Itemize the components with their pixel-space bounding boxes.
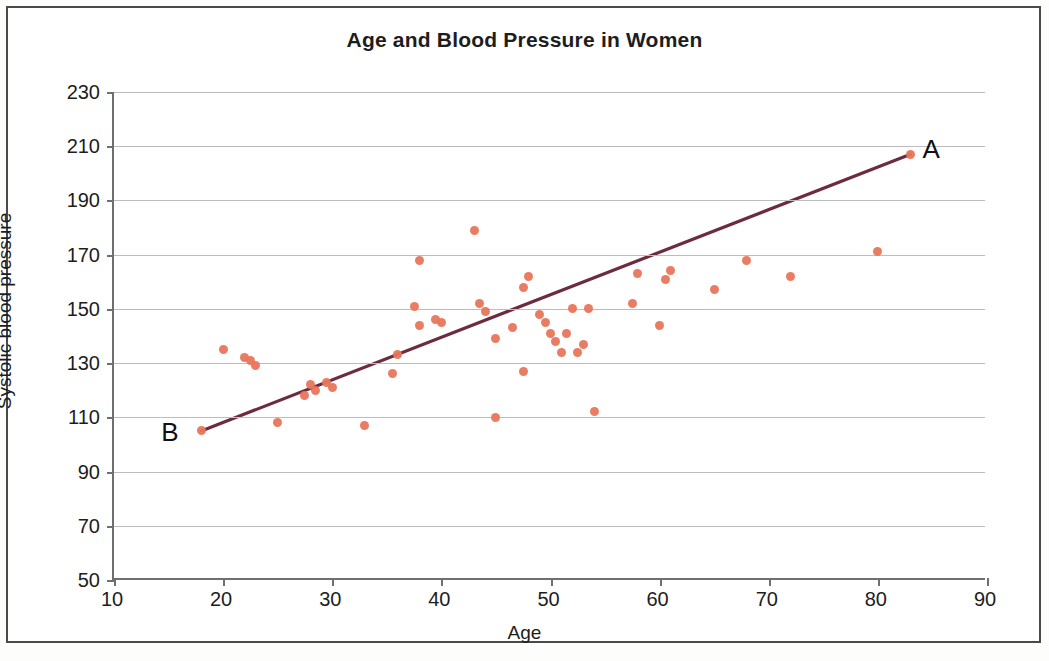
y-gridline — [114, 526, 985, 527]
data-point — [219, 345, 228, 354]
y-tick-mark — [107, 363, 114, 365]
y-tick-label: 210 — [40, 135, 100, 158]
data-point — [906, 150, 915, 159]
x-tick-mark — [441, 578, 443, 586]
data-point — [590, 407, 599, 416]
data-point — [300, 391, 309, 400]
data-point — [197, 426, 206, 435]
y-axis-title: Systolic blood pressure — [0, 1, 16, 621]
x-tick-label: 70 — [737, 588, 797, 611]
x-tick-label: 10 — [82, 588, 142, 611]
data-point — [519, 283, 528, 292]
y-tick-label: 170 — [40, 243, 100, 266]
y-tick-mark — [107, 309, 114, 311]
y-tick-mark — [107, 255, 114, 257]
y-tick-label: 70 — [40, 514, 100, 537]
data-point — [661, 275, 670, 284]
figure-page: Age and Blood Pressure in Women Age Syst… — [0, 0, 1049, 661]
annotation-label-a: A — [923, 134, 940, 165]
x-tick-mark — [769, 578, 771, 586]
y-tick-mark — [107, 92, 114, 94]
data-point — [562, 329, 571, 338]
data-point — [508, 323, 517, 332]
x-tick-mark — [878, 578, 880, 586]
data-point — [415, 256, 424, 265]
data-point — [568, 304, 577, 313]
y-tick-label: 230 — [40, 81, 100, 104]
y-tick-label: 150 — [40, 297, 100, 320]
data-point — [519, 367, 528, 376]
y-tick-mark — [107, 472, 114, 474]
data-point — [557, 348, 566, 357]
y-gridline — [114, 309, 985, 310]
y-gridline — [114, 146, 985, 147]
data-point — [481, 307, 490, 316]
y-tick-mark — [107, 200, 114, 202]
plot-area — [112, 92, 985, 580]
x-tick-label: 60 — [628, 588, 688, 611]
chart-title: Age and Blood Pressure in Women — [0, 28, 1049, 52]
data-point — [273, 418, 282, 427]
data-point — [491, 334, 500, 343]
data-point — [541, 318, 550, 327]
x-tick-mark — [114, 578, 116, 586]
data-point — [666, 266, 675, 275]
data-point — [388, 369, 397, 378]
data-point — [328, 383, 337, 392]
data-point — [360, 421, 369, 430]
y-tick-mark — [107, 146, 114, 148]
x-tick-label: 80 — [846, 588, 906, 611]
data-point — [584, 304, 593, 313]
x-axis-title: Age — [0, 622, 1049, 644]
x-tick-mark — [332, 578, 334, 586]
y-tick-label: 190 — [40, 189, 100, 212]
y-tick-label: 110 — [40, 406, 100, 429]
y-tick-mark — [107, 417, 114, 419]
y-tick-label: 90 — [40, 460, 100, 483]
data-point — [551, 337, 560, 346]
y-gridline — [114, 472, 985, 473]
y-gridline — [114, 255, 985, 256]
data-point — [573, 348, 582, 357]
data-point — [470, 226, 479, 235]
data-point — [491, 413, 500, 422]
data-point — [710, 285, 719, 294]
x-tick-mark — [223, 578, 225, 586]
data-point — [410, 302, 419, 311]
x-tick-mark — [987, 578, 989, 586]
data-point — [251, 361, 260, 370]
y-tick-label: 130 — [40, 352, 100, 375]
y-gridline — [114, 363, 985, 364]
y-gridline — [114, 417, 985, 418]
data-point — [579, 340, 588, 349]
x-tick-label: 20 — [191, 588, 251, 611]
data-point — [393, 350, 402, 359]
data-point — [655, 321, 664, 330]
x-tick-label: 90 — [955, 588, 1015, 611]
data-point — [415, 321, 424, 330]
x-tick-mark — [660, 578, 662, 586]
y-gridline — [114, 200, 985, 201]
y-gridline — [114, 92, 985, 93]
data-point — [742, 256, 751, 265]
data-point — [628, 299, 637, 308]
x-tick-label: 30 — [300, 588, 360, 611]
data-point — [633, 269, 642, 278]
y-tick-mark — [107, 580, 114, 582]
data-point — [311, 386, 320, 395]
x-tick-mark — [551, 578, 553, 586]
annotation-label-b: B — [161, 417, 178, 448]
y-tick-mark — [107, 526, 114, 528]
x-tick-label: 50 — [519, 588, 579, 611]
data-point — [786, 272, 795, 281]
data-point — [524, 272, 533, 281]
x-tick-label: 40 — [409, 588, 469, 611]
data-point — [437, 318, 446, 327]
